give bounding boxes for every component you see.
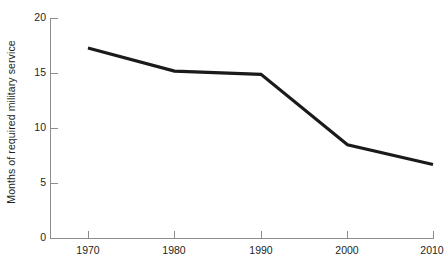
plot-area [0,0,448,277]
line-chart-figure: Months of required military service 20 1… [0,0,448,277]
data-series-line [88,48,433,165]
